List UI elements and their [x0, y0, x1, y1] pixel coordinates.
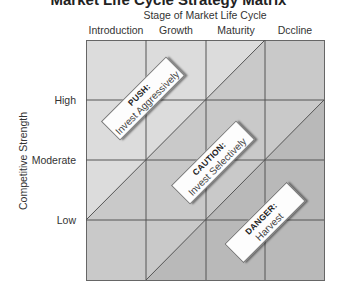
- strategy-matrix-grid: [0, 0, 337, 292]
